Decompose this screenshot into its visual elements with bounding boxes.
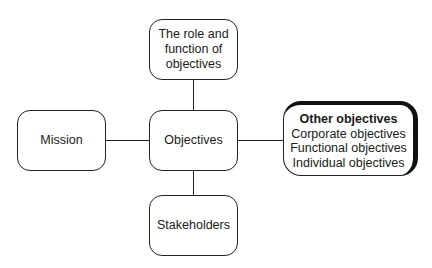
connector-top-to-objectives (193, 80, 194, 110)
node-objectives: Objectives (149, 110, 238, 171)
connector-objectives-to-other (238, 140, 283, 141)
node-label: Mission (40, 133, 82, 148)
node-item: Corporate objectives (291, 127, 406, 142)
node-text-line: function of (165, 42, 223, 57)
node-text-line: objectives (166, 57, 222, 72)
node-stakeholders: Stakeholders (149, 195, 238, 256)
node-label: Objectives (164, 133, 222, 148)
connector-mission-to-objectives (106, 140, 149, 141)
node-text-line: The role and (158, 27, 228, 42)
node-other-objectives: Other objectives Corporate objectives Fu… (283, 101, 418, 176)
connector-objectives-to-stakeholders (193, 171, 194, 195)
node-role-and-function: The role and function of objectives (149, 19, 238, 80)
node-mission: Mission (17, 110, 106, 171)
node-item: Functional objectives (290, 141, 407, 156)
node-item: Individual objectives (293, 156, 405, 171)
node-label: Stakeholders (157, 218, 230, 233)
node-title: Other objectives (300, 112, 398, 127)
